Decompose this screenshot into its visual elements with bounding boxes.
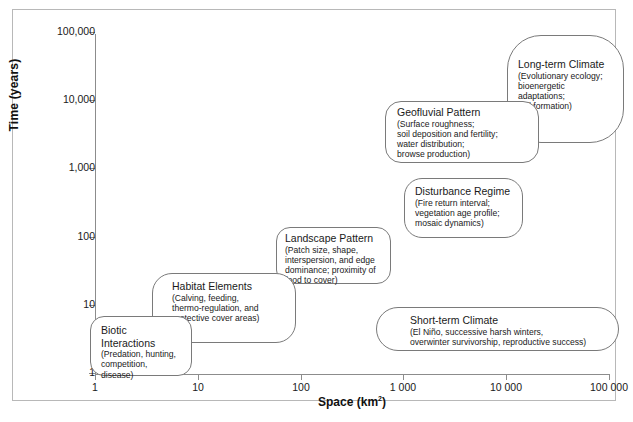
y-axis-title-label: Time (years) — [7, 30, 21, 160]
bubble-geofluvial-pattern-line2: soil deposition and fertility; — [397, 129, 527, 139]
x-tick-label-100: 100 — [261, 381, 341, 393]
bubble-disturbance-regime-line2: vegetation age profile; — [415, 208, 512, 218]
bubble-habitat-elements-title: Habitat Elements — [172, 280, 285, 293]
bubble-biotic-interactions-line2: competition, disease) — [101, 359, 181, 380]
x-axis-title-close: ) — [382, 395, 386, 409]
bubble-disturbance-regime-line3: mosaic dynamics) — [415, 218, 512, 228]
bubble-habitat-elements-line2: thermo-regulation, and — [172, 303, 285, 313]
x-axis-title: Space (km2) — [95, 395, 609, 409]
bubble-long-term-climate-title: Long-term Climate — [518, 58, 613, 71]
bubble-landscape-pattern-line2: interspersion, and edge — [285, 255, 382, 265]
bubble-short-term-climate-title: Short-term Climate — [410, 314, 608, 327]
y-tick-label-1: 1 — [35, 367, 95, 377]
bubble-short-term-climate[interactable]: Short-term Climate (El Niño, successive … — [376, 307, 619, 351]
bubble-disturbance-regime-line1: (Fire return interval; — [415, 198, 512, 208]
x-tick-label-1000: 1 000 — [363, 381, 443, 393]
bubble-long-term-climate-line1: (Evolutionary ecology; — [518, 71, 613, 81]
y-tick-label-10000: 10,000 — [35, 94, 95, 104]
bubble-biotic-interactions[interactable]: Biotic Interactions (Predation, hunting,… — [90, 316, 192, 376]
y-axis-title: Time (years) — [7, 30, 21, 160]
bubble-biotic-interactions-title: Biotic — [101, 324, 181, 337]
y-tick-label-10: 10 — [35, 299, 95, 309]
bubble-short-term-climate-line2: overwinter survivorship, reproductive su… — [410, 337, 608, 347]
x-axis-title-label: Space (km — [318, 395, 378, 409]
figure-caption — [12, 410, 616, 422]
bubble-geofluvial-pattern-text: Geofluvial Pattern (Surface roughness; s… — [386, 106, 538, 160]
bubble-landscape-pattern-title: Landscape Pattern — [285, 232, 382, 245]
y-tick-label-100: 100 — [35, 231, 95, 241]
y-tick-label-100000: 100,000 — [35, 26, 95, 36]
bubble-disturbance-regime-title: Disturbance Regime — [415, 185, 512, 198]
x-tick-label-100000: 100 000 — [569, 381, 633, 393]
bubble-disturbance-regime-text: Disturbance Regime (Fire return interval… — [405, 185, 522, 228]
x-tick-label-10000: 10 000 — [466, 381, 546, 393]
bubble-landscape-pattern-line3: dominance; proximity of — [285, 265, 382, 275]
bubble-landscape-pattern-line1: (Patch size, shape, — [285, 245, 382, 255]
bubble-geofluvial-pattern[interactable]: Geofluvial Pattern (Surface roughness; s… — [385, 101, 539, 163]
bubble-short-term-climate-text: Short-term Climate (El Niño, successive … — [377, 314, 618, 347]
y-tick-label-1000: 1,000 — [35, 162, 95, 172]
x-tick-label-10: 10 — [158, 381, 238, 393]
bubble-biotic-interactions-title2: Interactions — [101, 337, 181, 350]
bubble-short-term-climate-line1: (El Niño, successive harsh winters, — [410, 327, 608, 337]
bubble-landscape-pattern-line4: food to cover) — [285, 275, 382, 285]
figure-frame: Time (years) Space (km2) 100,000 10,000 … — [12, 9, 616, 401]
bubble-landscape-pattern[interactable]: Landscape Pattern (Patch size, shape, in… — [276, 227, 391, 284]
bubble-biotic-interactions-text: Biotic Interactions (Predation, hunting,… — [91, 324, 191, 380]
bubble-biotic-interactions-line1: (Predation, hunting, — [101, 349, 181, 359]
bubble-disturbance-regime[interactable]: Disturbance Regime (Fire return interval… — [404, 178, 523, 238]
bubble-geofluvial-pattern-line1: (Surface roughness; — [397, 119, 527, 129]
x-tick-label-1: 1 — [55, 381, 135, 393]
bubble-geofluvial-pattern-title: Geofluvial Pattern — [397, 106, 527, 119]
bubble-geofluvial-pattern-line3: water distribution; — [397, 139, 527, 149]
bubble-geofluvial-pattern-line4: browse production) — [397, 149, 527, 159]
bubble-long-term-climate-line2: bioenergetic adaptations; — [518, 81, 613, 102]
bubble-habitat-elements-line1: (Calving, feeding, — [172, 293, 285, 303]
bubble-landscape-pattern-text: Landscape Pattern (Patch size, shape, in… — [277, 232, 390, 286]
